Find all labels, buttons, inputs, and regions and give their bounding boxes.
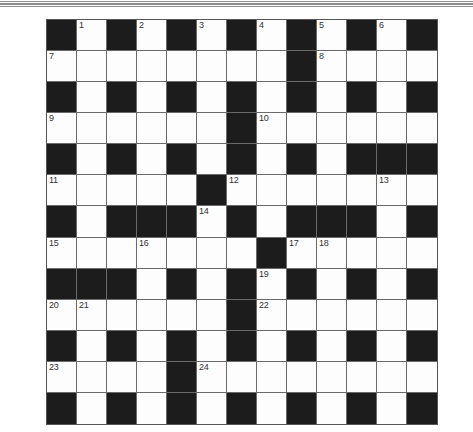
answer-cell[interactable] <box>407 113 437 144</box>
answer-cell[interactable] <box>287 362 317 393</box>
answer-cell[interactable] <box>377 393 407 424</box>
answer-cell[interactable] <box>377 331 407 362</box>
answer-cell[interactable] <box>167 238 197 269</box>
answer-cell[interactable] <box>77 331 107 362</box>
answer-cell[interactable] <box>257 175 287 206</box>
answer-cell[interactable] <box>287 300 317 331</box>
answer-cell[interactable]: 8 <box>317 51 347 82</box>
answer-cell[interactable] <box>107 51 137 82</box>
answer-cell[interactable]: 2 <box>137 20 167 51</box>
answer-cell[interactable] <box>197 51 227 82</box>
answer-cell[interactable] <box>317 362 347 393</box>
answer-cell[interactable] <box>77 113 107 144</box>
answer-cell[interactable] <box>167 300 197 331</box>
answer-cell[interactable]: 13 <box>377 175 407 206</box>
answer-cell[interactable] <box>317 331 347 362</box>
answer-cell[interactable] <box>107 175 137 206</box>
answer-cell[interactable] <box>377 362 407 393</box>
answer-cell[interactable] <box>287 175 317 206</box>
answer-cell[interactable] <box>347 238 377 269</box>
answer-cell[interactable]: 11 <box>47 175 77 206</box>
answer-cell[interactable] <box>257 393 287 424</box>
answer-cell[interactable] <box>407 238 437 269</box>
answer-cell[interactable]: 18 <box>317 238 347 269</box>
answer-cell[interactable] <box>347 362 377 393</box>
answer-cell[interactable] <box>107 113 137 144</box>
answer-cell[interactable]: 1 <box>77 20 107 51</box>
answer-cell[interactable] <box>377 113 407 144</box>
answer-cell[interactable] <box>317 175 347 206</box>
answer-cell[interactable]: 15 <box>47 238 77 269</box>
answer-cell[interactable] <box>197 300 227 331</box>
answer-cell[interactable] <box>197 144 227 175</box>
answer-cell[interactable] <box>137 300 167 331</box>
answer-cell[interactable] <box>407 362 437 393</box>
answer-cell[interactable] <box>407 51 437 82</box>
answer-cell[interactable] <box>377 238 407 269</box>
answer-cell[interactable] <box>77 362 107 393</box>
answer-cell[interactable] <box>257 144 287 175</box>
answer-cell[interactable]: 17 <box>287 238 317 269</box>
answer-cell[interactable] <box>377 82 407 113</box>
answer-cell[interactable] <box>197 269 227 300</box>
answer-cell[interactable] <box>377 269 407 300</box>
answer-cell[interactable] <box>197 82 227 113</box>
answer-cell[interactable]: 19 <box>257 269 287 300</box>
answer-cell[interactable]: 20 <box>47 300 77 331</box>
answer-cell[interactable]: 6 <box>377 20 407 51</box>
answer-cell[interactable] <box>377 206 407 237</box>
answer-cell[interactable]: 3 <box>197 20 227 51</box>
answer-cell[interactable]: 22 <box>257 300 287 331</box>
answer-cell[interactable] <box>197 331 227 362</box>
answer-cell[interactable] <box>257 331 287 362</box>
answer-cell[interactable] <box>407 175 437 206</box>
answer-cell[interactable] <box>257 51 287 82</box>
answer-cell[interactable] <box>257 362 287 393</box>
answer-cell[interactable] <box>227 238 257 269</box>
answer-cell[interactable] <box>107 300 137 331</box>
answer-cell[interactable] <box>77 82 107 113</box>
answer-cell[interactable]: 14 <box>197 206 227 237</box>
answer-cell[interactable]: 9 <box>47 113 77 144</box>
answer-cell[interactable] <box>197 238 227 269</box>
answer-cell[interactable] <box>77 206 107 237</box>
answer-cell[interactable] <box>137 144 167 175</box>
answer-cell[interactable] <box>377 51 407 82</box>
answer-cell[interactable] <box>107 362 137 393</box>
answer-cell[interactable] <box>137 393 167 424</box>
answer-cell[interactable] <box>317 144 347 175</box>
answer-cell[interactable]: 10 <box>257 113 287 144</box>
answer-cell[interactable] <box>317 393 347 424</box>
answer-cell[interactable] <box>77 51 107 82</box>
answer-cell[interactable] <box>137 362 167 393</box>
answer-cell[interactable] <box>137 331 167 362</box>
answer-cell[interactable] <box>317 269 347 300</box>
answer-cell[interactable]: 23 <box>47 362 77 393</box>
answer-cell[interactable] <box>257 82 287 113</box>
answer-cell[interactable] <box>167 113 197 144</box>
answer-cell[interactable] <box>317 300 347 331</box>
answer-cell[interactable]: 16 <box>137 238 167 269</box>
answer-cell[interactable] <box>137 175 167 206</box>
answer-cell[interactable] <box>197 393 227 424</box>
answer-cell[interactable] <box>197 113 227 144</box>
answer-cell[interactable] <box>227 362 257 393</box>
answer-cell[interactable] <box>287 113 317 144</box>
answer-cell[interactable]: 24 <box>197 362 227 393</box>
answer-cell[interactable] <box>137 113 167 144</box>
answer-cell[interactable] <box>347 175 377 206</box>
answer-cell[interactable] <box>107 238 137 269</box>
answer-cell[interactable] <box>77 238 107 269</box>
answer-cell[interactable] <box>407 300 437 331</box>
answer-cell[interactable] <box>167 51 197 82</box>
answer-cell[interactable] <box>137 82 167 113</box>
answer-cell[interactable]: 5 <box>317 20 347 51</box>
answer-cell[interactable]: 21 <box>77 300 107 331</box>
answer-cell[interactable]: 7 <box>47 51 77 82</box>
answer-cell[interactable] <box>227 51 257 82</box>
answer-cell[interactable] <box>317 113 347 144</box>
answer-cell[interactable] <box>347 300 377 331</box>
answer-cell[interactable] <box>137 269 167 300</box>
answer-cell[interactable] <box>167 175 197 206</box>
answer-cell[interactable] <box>77 144 107 175</box>
